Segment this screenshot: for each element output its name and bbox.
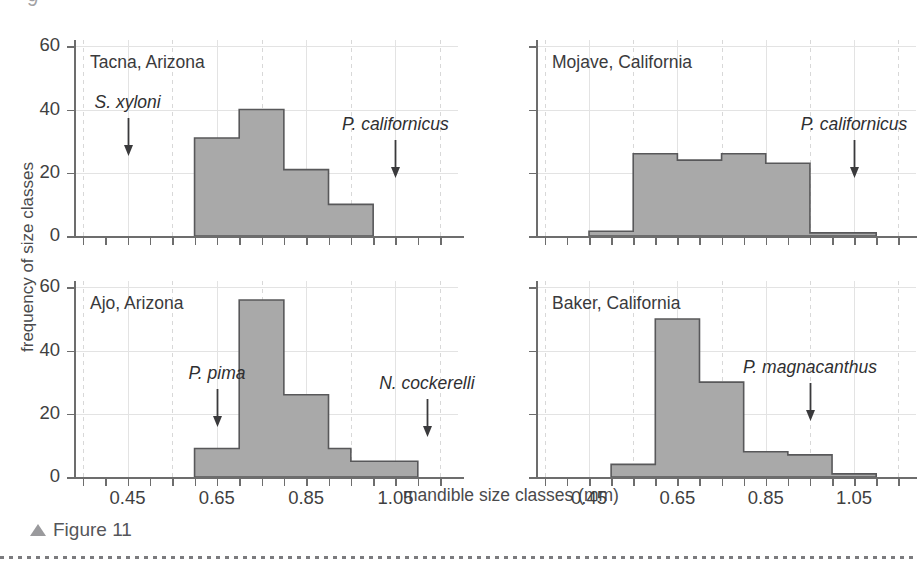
y-tick-label: 20 <box>20 161 60 183</box>
y-tick <box>67 110 74 112</box>
figure-caption-text: Figure 11 <box>53 519 132 541</box>
panel-mojave: Mojave, CaliforniaP. californicus <box>536 40 916 236</box>
y-axis-title: frequency of size classes <box>18 92 38 422</box>
y-tick <box>67 287 74 289</box>
x-tick <box>810 238 812 245</box>
x-tick <box>766 238 768 245</box>
y-tick <box>67 477 74 479</box>
y-axis-line <box>536 281 538 479</box>
x-tick <box>788 238 790 245</box>
x-tick <box>876 238 878 245</box>
x-tick <box>854 479 856 486</box>
x-tick <box>633 238 635 245</box>
x-tick <box>744 238 746 245</box>
x-tick-label: 0.85 <box>736 487 796 509</box>
x-tick <box>373 238 375 245</box>
x-tick <box>217 238 219 245</box>
x-tick <box>611 238 613 245</box>
figure-caption: Figure 11 <box>30 519 132 541</box>
x-tick <box>83 479 85 486</box>
x-tick <box>854 238 856 245</box>
panel-title-mojave: Mojave, California <box>552 52 692 73</box>
x-tick <box>329 479 331 486</box>
x-tick <box>655 479 657 486</box>
x-tick-label: 0.85 <box>276 487 336 509</box>
y-tick <box>529 351 536 353</box>
x-tick <box>418 238 420 245</box>
x-tick <box>440 479 442 486</box>
x-tick <box>306 479 308 486</box>
x-axis-line <box>536 477 917 479</box>
triangle-up-icon <box>30 524 46 536</box>
annotation-label: N. cockerelli <box>379 373 474 394</box>
x-tick <box>567 238 569 245</box>
panel-title-ajo: Ajo, Arizona <box>90 293 183 314</box>
x-tick <box>329 238 331 245</box>
annotation-label: P. pima <box>188 363 245 384</box>
annotation-arrow-down-icon <box>389 140 402 180</box>
y-tick <box>529 110 536 112</box>
y-axis-line <box>74 281 76 479</box>
x-tick <box>395 238 397 245</box>
y-tick <box>529 236 536 238</box>
x-tick <box>128 238 130 245</box>
x-tick <box>589 479 591 486</box>
x-tick <box>876 479 878 486</box>
x-tick <box>105 238 107 245</box>
annotation-arrow-down-icon <box>122 118 135 158</box>
x-tick <box>788 479 790 486</box>
x-axis-line <box>536 236 917 238</box>
x-tick <box>395 479 397 486</box>
annotation-label: S. xyloni <box>95 92 161 113</box>
panel-baker: 0.450.650.851.05Baker, CaliforniaP. magn… <box>536 281 916 477</box>
panel-title-tacna: Tacna, Arizona <box>90 52 205 73</box>
y-tick-label: 0 <box>20 224 60 246</box>
x-tick <box>722 479 724 486</box>
y-tick <box>67 236 74 238</box>
y-tick <box>529 414 536 416</box>
x-tick <box>677 238 679 245</box>
bottom-dotted-rule <box>0 556 917 559</box>
x-tick <box>373 479 375 486</box>
x-tick <box>351 238 353 245</box>
clipped-top-glyph: 9 <box>27 0 39 11</box>
x-tick <box>545 238 547 245</box>
x-tick <box>195 479 197 486</box>
x-tick <box>722 238 724 245</box>
y-tick <box>67 173 74 175</box>
x-tick <box>306 238 308 245</box>
x-tick <box>810 479 812 486</box>
y-tick-label: 60 <box>20 275 60 297</box>
x-tick <box>418 479 420 486</box>
x-tick <box>262 479 264 486</box>
y-tick-label: 40 <box>20 98 60 120</box>
y-axis-line <box>536 40 538 238</box>
x-tick <box>262 238 264 245</box>
x-tick <box>239 238 241 245</box>
annotation-label: P. californicus <box>801 114 908 135</box>
x-tick <box>284 479 286 486</box>
x-tick <box>195 238 197 245</box>
x-tick <box>898 238 900 245</box>
annotation-arrow-down-icon <box>804 383 817 423</box>
y-tick <box>67 414 74 416</box>
annotation-arrow-down-icon <box>421 399 434 439</box>
y-tick <box>529 477 536 479</box>
x-tick <box>150 479 152 486</box>
figure-root: 9 frequency of size classes mandible siz… <box>0 0 917 564</box>
y-tick-label: 20 <box>20 402 60 424</box>
x-tick <box>239 479 241 486</box>
x-tick <box>677 479 679 486</box>
x-tick <box>567 479 569 486</box>
x-tick <box>611 479 613 486</box>
y-tick-label: 60 <box>20 34 60 56</box>
x-tick <box>633 479 635 486</box>
annotation-label: P. californicus <box>342 114 449 135</box>
x-tick <box>172 238 174 245</box>
x-tick-label: 0.45 <box>98 487 158 509</box>
x-tick <box>832 238 834 245</box>
x-tick <box>83 238 85 245</box>
x-tick-label: 0.65 <box>187 487 247 509</box>
x-tick-label: 0.65 <box>647 487 707 509</box>
x-tick <box>766 479 768 486</box>
